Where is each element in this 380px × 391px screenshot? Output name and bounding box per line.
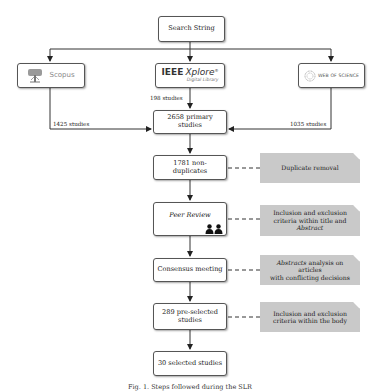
scopus-box: Scopus [17,63,85,88]
step-selected-studies: 30 selected studies [153,351,227,376]
figure-caption: Fig. 1. Steps followed during the SLR [0,383,380,391]
note-body-criteria: Inclusion and exclusion criteria within … [260,302,360,332]
web-of-science-globe-logo-icon [304,70,316,82]
scopus-count-label: 1425 studies [53,121,89,127]
scopus-label: Scopus [49,71,74,79]
note-abstracts-analysis: Abstracts analysis on articles with conf… [260,255,360,285]
note-duplicate-removal: Duplicate removal [260,153,360,183]
note-title-abstract-criteria: Inclusion and exclusion criteria within … [260,205,360,236]
ieee-xplore-box: IEEE Xplore® Digital Library [155,63,225,88]
connector-lines [0,0,380,391]
search-string-label: Search String [168,25,214,33]
scopus-tree-logo-icon [27,68,43,84]
web-of-science-box: WEB OF SCIENCE [298,63,365,88]
ieee-xplore-logo-icon: IEEE Xplore® Digital Library [161,68,218,83]
step-peer-review: Peer Review [153,202,227,236]
step-pre-selected: 289 pre-selected studies [153,303,227,330]
people-pair-icon [205,224,223,234]
search-string-box: Search String [158,16,225,42]
web-of-science-label: WEB OF SCIENCE [318,73,359,78]
step-non-duplicates: 1781 non-duplicates [153,155,227,180]
ieee-count-label: 198 studies [150,95,183,101]
wos-count-label: 1035 studies [290,121,326,127]
step-primary-studies: 2658 primary studies [153,110,227,134]
step-consensus-meeting: Consensus meeting [153,258,227,282]
